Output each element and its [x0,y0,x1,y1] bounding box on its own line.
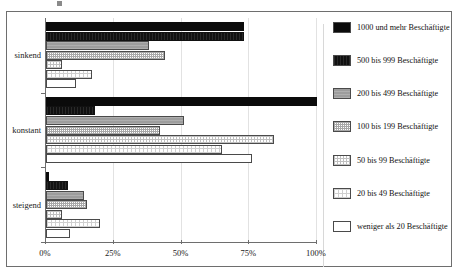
bar [46,210,62,219]
legend-swatch-icon [333,88,351,99]
legend-item[interactable]: weniger als 20 Beschäftigte [333,221,451,234]
legend-label: 1000 und mehr Beschäftigte [357,22,450,33]
legend-label: 20 bis 49 Beschäftigte [357,188,430,199]
category-label-sinkend: sinkend [2,50,41,60]
legend-label: 100 bis 199 Beschäftigte [357,121,438,132]
legend-item[interactable]: 1000 und mehr Beschäftigte [333,22,451,35]
y-axis-tick [41,242,46,243]
plot-area: 0%25%50%75%100%sinkendkonstantsteigend [45,18,316,242]
chart-page: 0%25%50%75%100%sinkendkonstantsteigend 1… [0,0,459,274]
bar [46,60,62,69]
legend-label: 50 bis 99 Beschäftigte [357,155,430,166]
legend-item[interactable]: 50 bis 99 Beschäftigte [333,155,451,168]
gridline [316,18,317,242]
x-axis-tick [248,240,249,244]
bar [46,126,160,135]
bar [46,229,70,238]
gridline [248,18,249,242]
legend-item[interactable]: 20 bis 49 Beschäftigte [333,188,451,201]
x-axis-tick-label: 100% [306,248,326,258]
category-label-steigend: steigend [2,200,41,210]
legend-item[interactable]: 500 bis 999 Beschäftigte [333,55,451,68]
x-axis-tick-label: 50% [173,248,189,258]
legend-swatch-icon [333,121,351,132]
x-axis-tick-label: 0% [39,248,50,258]
y-axis-tick [41,93,46,94]
bar [46,145,222,154]
bar [46,41,149,50]
x-axis-tick-label: 25% [105,248,121,258]
x-axis-tick-label: 75% [240,248,256,258]
legend-label: 500 bis 999 Beschäftigte [357,55,438,66]
legend-label: weniger als 20 Beschäftigte [357,221,448,232]
bar [46,191,84,200]
bar [46,97,317,106]
bar [46,51,165,60]
legend-divider [323,24,324,267]
bar [46,70,92,79]
bar [46,181,68,190]
legend-swatch-icon [333,155,351,166]
legend-item[interactable]: 100 bis 199 Beschäftigte [333,121,451,134]
bar [46,219,100,228]
legend-label: 200 bis 499 Beschäftigte [357,88,438,99]
bar [46,135,274,144]
bar [46,154,252,163]
x-axis-tick [181,240,182,244]
bar [46,32,244,41]
legend-swatch-icon [333,188,351,199]
legend-swatch-icon [333,55,351,66]
legend-item[interactable]: 200 bis 499 Beschäftigte [333,88,451,101]
x-axis-tick [316,240,317,244]
legend-swatch-icon [333,221,351,232]
bar [46,116,184,125]
bar [46,79,76,88]
bar [46,172,49,181]
y-axis-tick [41,167,46,168]
x-axis-tick [113,240,114,244]
remnant-square-icon [57,1,62,6]
gridline [181,18,182,242]
bar [46,106,95,115]
legend-swatch-icon [333,22,351,33]
page-top-remnant [57,0,177,7]
bar [46,200,87,209]
category-label-konstant: konstant [2,125,41,135]
bar [46,22,244,31]
chart-legend: 1000 und mehr Beschäftigte500 bis 999 Be… [333,21,451,253]
